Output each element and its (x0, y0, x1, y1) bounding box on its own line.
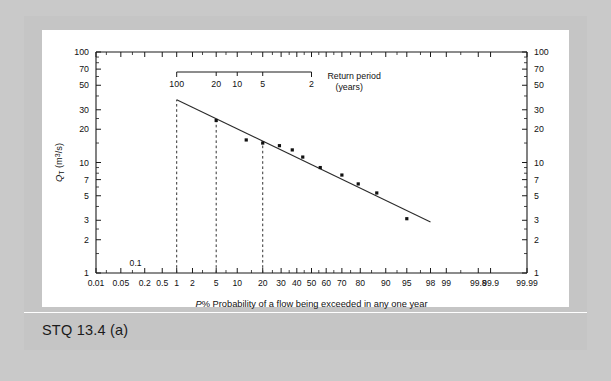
x-axis-tick-label: 90 (381, 278, 391, 288)
x-axis-tick-label: 99.9 (482, 278, 499, 288)
y-axis-title: QT (m3/s) (54, 143, 65, 182)
return-period-tick-label: 20 (211, 79, 221, 89)
y-axis-tick-label-right: 20 (534, 124, 544, 134)
data-point (405, 217, 408, 220)
y-axis-tick-label-right: 10 (534, 158, 544, 168)
return-period-tick-label: 10 (232, 79, 242, 89)
x-axis-tick-label: 5 (214, 278, 219, 288)
x-axis-tick-label: 0.2 (139, 278, 151, 288)
x-axis-tick-label: 80 (355, 278, 365, 288)
return-period-tick-label: 100 (169, 79, 184, 89)
y-axis-tick-label-right: 30 (534, 105, 544, 115)
data-point (340, 173, 343, 176)
y-axis-tick-label: 1 (84, 268, 89, 278)
return-period-title-line2: (years) (336, 82, 363, 92)
x-axis-tick-label: 20 (258, 278, 268, 288)
data-point (375, 191, 378, 194)
y-axis-title-tail: /s) (54, 143, 64, 153)
y-axis-tick-label: 3 (84, 215, 89, 225)
data-point (291, 148, 294, 151)
y-axis-tick-label-right: 100 (534, 47, 549, 57)
y-axis-title-unit: (m (54, 157, 64, 171)
data-point (278, 144, 281, 147)
x-axis-title: P% Probability of a flow being exceeded … (195, 299, 427, 309)
y-axis-tick-label: 10 (79, 158, 89, 168)
y-axis-tick-label-right: 1 (534, 268, 539, 278)
x-axis-tick-label: 99 (442, 278, 452, 288)
y-axis-tick-label: 7 (84, 175, 89, 185)
data-point (245, 138, 248, 141)
y-axis-tick-label: 100 (74, 47, 89, 57)
y-axis-tick-label: 70 (79, 64, 89, 74)
x-axis-tick-label: 98 (426, 278, 436, 288)
x-axis-tick-label: 0.5 (156, 278, 168, 288)
fit-line (177, 100, 431, 222)
x-axis-tick-label: 30 (276, 278, 286, 288)
return-period-tick-label: 5 (260, 79, 265, 89)
y-axis-tick-label: 20 (79, 124, 89, 134)
y-axis-tick-label-right: 5 (534, 191, 539, 201)
y-axis-title-symbol: Q (54, 175, 64, 182)
data-point (319, 166, 322, 169)
data-point (261, 141, 264, 144)
y-axis-tick-label-right: 7 (534, 175, 539, 185)
x-axis-tick-label: 50 (307, 278, 317, 288)
x-axis-tick-label: 2 (190, 278, 195, 288)
x-axis-tick-label: 95 (402, 278, 412, 288)
y-axis-tick-label: 2 (84, 235, 89, 245)
x-axis-tick-label: 70 (337, 278, 347, 288)
x-axis-title-text: Probability of a flow being exceeded in … (213, 299, 428, 309)
return-period-tick-label: 2 (309, 79, 314, 89)
x-axis-tick-label: 60 (321, 278, 331, 288)
y-axis-tick-label: 50 (79, 80, 89, 90)
x-axis-title-percent: % (202, 299, 213, 309)
x-axis-tick-label: 40 (292, 278, 302, 288)
data-point (301, 155, 304, 158)
x-axis-tick-label: 0.05 (112, 278, 129, 288)
x-axis-tick-label: 1 (174, 278, 179, 288)
data-point (357, 182, 360, 185)
x-axis-tick-label: 10 (232, 278, 242, 288)
data-point (215, 119, 218, 122)
x-axis-tick-label: 0.01 (88, 278, 105, 288)
y-axis-tick-label-right: 2 (534, 235, 539, 245)
figure-caption: STQ 13.4 (a) (42, 322, 128, 338)
figure-root: 1122335577101020203030505070701001000.01… (0, 0, 611, 381)
y-axis-tick-label: 5 (84, 191, 89, 201)
y-axis-tick-label: 30 (79, 105, 89, 115)
y-axis-tick-label-right: 50 (534, 80, 544, 90)
y-axis-tick-label-right: 3 (534, 215, 539, 225)
return-period-title-line1: Return period (328, 71, 381, 81)
y-axis-tick-label-right: 70 (534, 64, 544, 74)
x-axis-tick-label: 99.99 (516, 278, 538, 288)
annotation-0-1: 0.1 (130, 258, 142, 268)
